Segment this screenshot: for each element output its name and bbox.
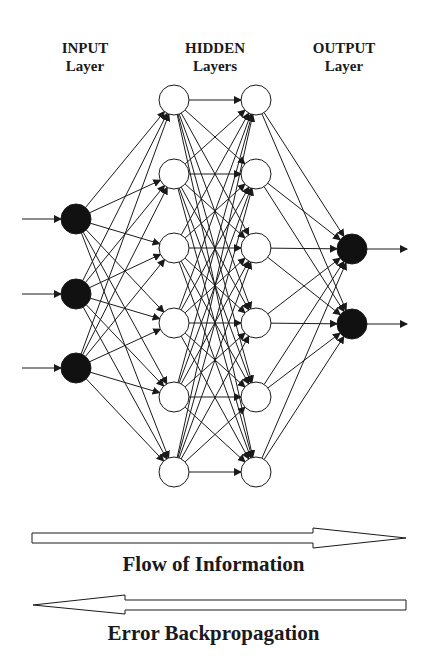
connection-arrow [264, 337, 344, 460]
hidden1-node [159, 233, 189, 263]
connection-arrow [271, 248, 337, 249]
error-backpropagation-arrow-icon [33, 595, 406, 614]
input-node [61, 279, 91, 309]
output-node [337, 234, 367, 264]
hidden2-node [241, 457, 271, 487]
hidden2-node [241, 159, 271, 189]
hidden1-node [159, 85, 189, 115]
hidden2-node [241, 85, 271, 115]
hidden1-node [159, 308, 189, 338]
connection-arrow [90, 329, 161, 361]
connection-arrow [264, 113, 344, 237]
hidden1-node [159, 382, 189, 412]
connection-arrow [268, 183, 340, 240]
hidden2-node [241, 308, 271, 338]
connection-arrow [90, 372, 159, 392]
hidden2-node [241, 233, 271, 263]
output-node [337, 309, 367, 339]
flow-of-information-label: Flow of Information [0, 552, 427, 577]
connection-arrow [86, 379, 163, 461]
input-node [61, 204, 91, 234]
connection-arrow [262, 263, 346, 458]
hidden1-node [159, 457, 189, 487]
hidden2-node [241, 382, 271, 412]
input-node [61, 353, 91, 383]
flow-of-information-arrow-icon [32, 528, 406, 548]
error-backpropagation-label: Error Backpropagation [0, 621, 427, 646]
hidden1-node [159, 159, 189, 189]
connection-arrow [83, 187, 167, 354]
connection-arrow [83, 113, 167, 280]
